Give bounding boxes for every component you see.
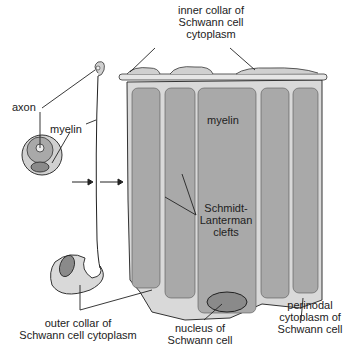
label-myelin-small: myelin: [50, 123, 82, 135]
label-perinodal: perinodal cytoplasm of Schwann cell: [270, 299, 350, 335]
cross-section-nucleus: [31, 162, 49, 172]
inner-collar-bumps: [127, 67, 318, 74]
schwann-cell-diagram: [0, 0, 353, 345]
label-axon: axon: [12, 101, 36, 113]
sheet-nucleus: [207, 292, 247, 312]
arrows: [72, 179, 123, 185]
label-schmidt-lanterman: Schmidt- Lanterman clefts: [195, 202, 257, 238]
mesaxon-line: [96, 76, 100, 268]
label-outer-collar: outer collar of Schwann cell cytoplasm: [8, 317, 148, 341]
label-inner-collar: inner collar of Schwann cell cytoplasm: [158, 4, 264, 40]
label-myelin-large: myelin: [207, 114, 239, 126]
label-nucleus: nucleus of Schwann cell: [160, 322, 240, 345]
inner-collar-bar: [119, 74, 327, 80]
outer-collar-cell: [51, 255, 104, 294]
